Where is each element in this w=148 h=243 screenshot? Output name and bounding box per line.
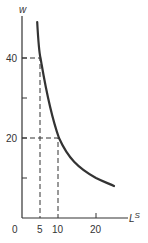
labor-supply-chart: w 40 20 0 5 10 20 LS (0, 0, 148, 243)
x-tick-label-20: 20 (90, 224, 102, 235)
x-tick-label-0: 0 (12, 224, 18, 235)
y-axis-label: w (19, 4, 27, 15)
supply-curve (37, 22, 114, 186)
x-axis-label-sup: S (135, 211, 141, 220)
x-axis-label: LS (129, 211, 141, 224)
x-tick-label-10: 10 (52, 224, 64, 235)
x-tick-label-5: 5 (37, 224, 43, 235)
y-tick-label-40: 40 (6, 53, 18, 64)
y-tick-label-20: 20 (6, 133, 18, 144)
